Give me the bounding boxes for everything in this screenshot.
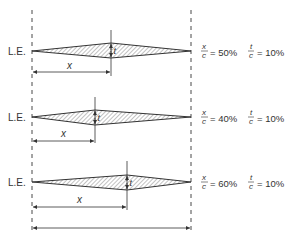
- x-label: x: [76, 194, 83, 205]
- diamond-airfoil-section: [32, 110, 191, 125]
- t-over-c-numerator: t: [250, 42, 253, 51]
- x-over-c-denominator: c: [202, 117, 206, 126]
- t-over-c-value: = 10%: [257, 113, 285, 124]
- x-over-c-denominator: c: [202, 182, 206, 191]
- leading-edge-label: L.E.: [8, 112, 26, 123]
- leading-edge-label: L.E.: [8, 46, 26, 57]
- x-over-c-denominator: c: [202, 51, 206, 60]
- t-over-c-numerator: t: [250, 173, 253, 182]
- leading-edge-label: L.E.: [8, 177, 26, 188]
- diamond-airfoil-section: [32, 175, 191, 190]
- t-over-c-denominator: c: [249, 182, 253, 191]
- airfoil-row-2: t x L.E. x c = 40% t c = 10%: [8, 97, 285, 143]
- diamond-airfoil-section: [32, 43, 191, 58]
- x-over-c-numerator: x: [201, 42, 207, 51]
- t-over-c-value: = 10%: [257, 178, 285, 189]
- x-over-c-value: = 40%: [210, 113, 238, 124]
- airfoil-row-1: t x L.E. x c = 50% t c = 10%: [8, 30, 285, 76]
- t-over-c-denominator: c: [249, 117, 253, 126]
- airfoil-row-3: t x L.E. x c = 60% t c = 10%: [8, 161, 285, 210]
- x-label: x: [66, 60, 73, 71]
- x-label: x: [60, 128, 67, 139]
- t-over-c-denominator: c: [249, 51, 253, 60]
- x-over-c-value: = 60%: [210, 178, 238, 189]
- t-over-c-value: = 10%: [257, 47, 285, 58]
- x-over-c-value: = 50%: [210, 47, 238, 58]
- x-over-c-numerator: x: [201, 108, 207, 117]
- x-over-c-numerator: x: [201, 173, 207, 182]
- airfoil-diagram: t x L.E. x c = 50% t c = 10% t x L.E. x …: [0, 0, 290, 244]
- t-over-c-numerator: t: [250, 108, 253, 117]
